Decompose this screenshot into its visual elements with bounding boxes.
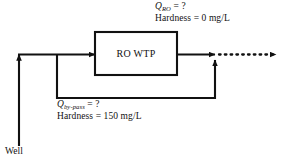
flow-diagram-svg	[0, 0, 283, 163]
ro-flow-value: = ?	[173, 1, 185, 11]
by-pass-hardness-line: Hardness = 150 mg/L	[57, 111, 142, 123]
by-pass-flow-symbol: Q	[57, 99, 64, 109]
ro-stream-label: QRO = ? Hardness = 0 mg/L	[155, 1, 230, 24]
by-pass-flow-line: Qby-pass = ?	[57, 99, 142, 111]
ro-hardness-text: Hardness = 0 mg/L	[155, 13, 230, 23]
ro-flow-subscript: RO	[162, 5, 171, 12]
ro-flow-symbol: Q	[155, 1, 162, 11]
by-pass-flow-subscript: by-pass	[64, 103, 85, 110]
by-pass-hardness-text: Hardness = 150 mg/L	[57, 111, 142, 121]
well-source-label: Well	[5, 146, 23, 158]
by-pass-stream-label: Qby-pass = ? Hardness = 150 mg/L	[57, 99, 142, 122]
ro-wtp-box-label: RO WTP	[95, 32, 177, 75]
diagram-canvas: RO WTP QRO = ? Hardness = 0 mg/L Qby-pas…	[0, 0, 283, 163]
by-pass-flow-value: = ?	[87, 99, 99, 109]
ro-hardness-line: Hardness = 0 mg/L	[155, 13, 230, 25]
ro-flow-line: QRO = ?	[155, 1, 230, 13]
